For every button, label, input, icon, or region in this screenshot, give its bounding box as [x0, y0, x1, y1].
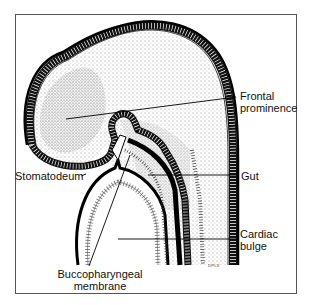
label-frontal-line1: Frontal: [240, 90, 297, 102]
label-stomatodeum: Stomatodeum: [15, 170, 83, 182]
label-frontal-line2: prominence: [240, 102, 297, 114]
label-cardiac-bulge: Cardiac bulge: [240, 228, 278, 252]
label-bucco-line1: Buccopharyngeal: [50, 268, 150, 280]
label-bucco-line2: membrane: [50, 280, 150, 292]
label-cardiac-line1: Cardiac: [240, 228, 278, 240]
label-frontal-prominence: Frontal prominence: [240, 90, 297, 114]
label-buccopharyngeal-membrane: Buccopharyngeal membrane: [50, 268, 150, 292]
artist-signature: DPLX: [208, 263, 220, 268]
embryo-illustration: [0, 0, 311, 305]
label-cardiac-line2: bulge: [240, 240, 278, 252]
label-gut: Gut: [241, 170, 259, 182]
